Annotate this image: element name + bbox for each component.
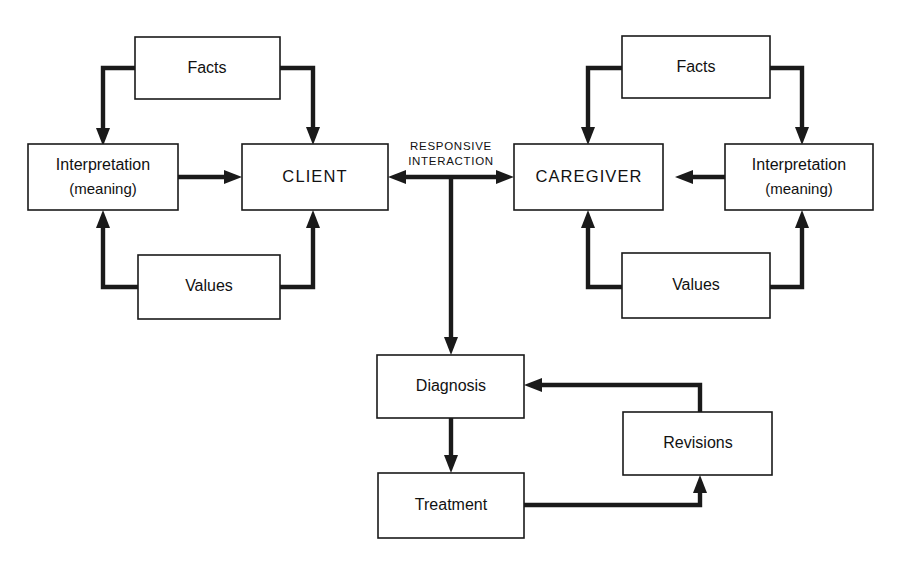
edge-revisions-to-diagnosis — [524, 378, 700, 412]
edge-client-values-to-client — [280, 210, 320, 287]
edge-caregiver-values-to-caregiver — [581, 210, 622, 287]
node-caregiver-interpretation: Interpretation (meaning) — [725, 144, 873, 210]
edge-treatment-to-revisions — [524, 475, 707, 505]
caregiver-values-label: Values — [672, 276, 720, 293]
node-diagnosis: Diagnosis — [377, 355, 524, 418]
client-interpretation-label: Interpretation — [56, 156, 150, 173]
flow-diagram: Facts Interpretation (meaning) CLIENT Va… — [0, 0, 903, 566]
caregiver-facts-label: Facts — [676, 58, 715, 75]
node-client-interpretation: Interpretation (meaning) — [28, 144, 178, 210]
arrowhead-left — [524, 378, 542, 392]
node-client: CLIENT — [242, 144, 388, 210]
responsive-interaction-line1: RESPONSIVE — [410, 140, 492, 152]
client-label: CLIENT — [282, 167, 347, 185]
arrowhead-down — [444, 337, 458, 355]
arrowhead-right — [496, 170, 514, 184]
client-interpretation-sublabel: (meaning) — [69, 180, 137, 197]
arrowhead-up — [581, 210, 595, 228]
edge-caregiver-facts-to-interpretation — [770, 68, 809, 145]
arrowhead-right — [224, 170, 242, 184]
edge-caregiver-facts-to-caregiver — [581, 68, 622, 145]
node-revisions: Revisions — [623, 412, 772, 475]
edge-client-facts-to-interpretation — [96, 68, 135, 146]
edge-client-facts-to-client — [280, 68, 320, 145]
responsive-interaction-line2: INTERACTION — [408, 155, 494, 167]
caregiver-interpretation-label: Interpretation — [752, 156, 846, 173]
node-caregiver-values: Values — [622, 253, 770, 318]
caregiver-interpretation-sublabel: (meaning) — [765, 180, 833, 197]
arrowhead-down — [444, 455, 458, 473]
revisions-label: Revisions — [663, 434, 732, 451]
diagnosis-label: Diagnosis — [416, 377, 486, 394]
node-caregiver-facts: Facts — [622, 36, 770, 98]
edge-caregiver-values-to-interpretation — [770, 210, 809, 287]
caregiver-label: CAREGIVER — [535, 167, 642, 185]
edge-client-values-to-interpretation — [96, 210, 138, 287]
client-facts-label: Facts — [187, 59, 226, 76]
node-client-values: Values — [138, 255, 280, 319]
node-client-facts: Facts — [135, 37, 280, 99]
client-values-label: Values — [185, 277, 233, 294]
diagram-canvas: Facts Interpretation (meaning) CLIENT Va… — [0, 0, 903, 566]
arrowhead-up — [693, 475, 707, 493]
arrowhead-up — [306, 210, 320, 228]
edge-client-interpretation-to-client — [178, 170, 242, 184]
arrowhead-left — [388, 170, 406, 184]
arrowhead-up — [795, 210, 809, 228]
edge-responsive-interaction — [388, 170, 514, 355]
arrowhead-down — [306, 127, 320, 145]
arrowhead-left — [675, 170, 693, 184]
responsive-interaction-label: RESPONSIVE INTERACTION — [408, 140, 494, 167]
treatment-label: Treatment — [415, 496, 488, 513]
arrowhead-down — [795, 127, 809, 145]
node-treatment: Treatment — [378, 473, 524, 538]
edge-caregiver-interpretation-to-caregiver — [675, 170, 725, 184]
edge-diagnosis-to-treatment — [444, 418, 458, 473]
node-caregiver: CAREGIVER — [514, 144, 663, 210]
arrowhead-down — [581, 127, 595, 145]
arrowhead-up — [96, 210, 110, 228]
